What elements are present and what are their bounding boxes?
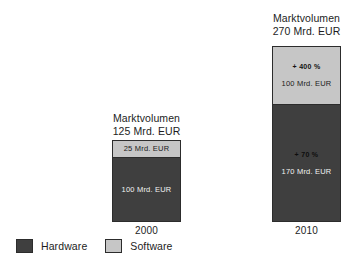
stacked-bar-chart: Marktvolumen 125 Mrd. EUR 25 Mrd. EUR 10… — [0, 0, 359, 269]
bar-caption-value-2010: 270 Mrd. EUR — [236, 25, 359, 38]
bar-segment-software-2010: + 400 % 100 Mrd. EUR — [273, 47, 340, 105]
bar-caption-title-2010: Marktvolumen — [236, 12, 359, 25]
axis-label-2000: 2000 — [76, 225, 217, 236]
legend-label-hardware: Hardware — [41, 240, 87, 252]
axis-label-2010: 2010 — [236, 225, 359, 236]
chart-legend: Hardware Software — [16, 239, 173, 253]
legend-entry-software: Software — [105, 239, 172, 253]
stacked-bar-2000: 25 Mrd. EUR 100 Mrd. EUR — [112, 140, 181, 222]
segment-value-hardware-2010: 170 Mrd. EUR — [282, 167, 332, 176]
segment-value-software-2000: 25 Mrd. EUR — [124, 144, 170, 153]
legend-entry-hardware: Hardware — [16, 239, 87, 253]
bar-segment-hardware-2010: + 70 % 170 Mrd. EUR — [273, 105, 340, 221]
segment-percent-hardware-2010: + 70 % — [295, 151, 319, 158]
bar-caption-2010: Marktvolumen 270 Mrd. EUR — [236, 12, 359, 37]
bar-segment-hardware-2000: 100 Mrd. EUR — [113, 158, 180, 221]
bar-segment-software-2000: 25 Mrd. EUR — [113, 141, 180, 158]
segment-percent-software-2010: + 400 % — [293, 63, 321, 70]
bar-caption-2000: Marktvolumen 125 Mrd. EUR — [76, 112, 217, 137]
legend-swatch-hardware-icon — [16, 239, 33, 253]
bar-caption-value-2000: 125 Mrd. EUR — [76, 125, 217, 138]
legend-label-software: Software — [130, 240, 172, 252]
segment-value-software-2010: 100 Mrd. EUR — [282, 79, 332, 88]
legend-swatch-software-icon — [105, 239, 122, 253]
stacked-bar-2010: + 400 % 100 Mrd. EUR + 70 % 170 Mrd. EUR — [272, 46, 341, 222]
bar-caption-title-2000: Marktvolumen — [76, 112, 217, 125]
segment-value-hardware-2000: 100 Mrd. EUR — [122, 185, 172, 194]
